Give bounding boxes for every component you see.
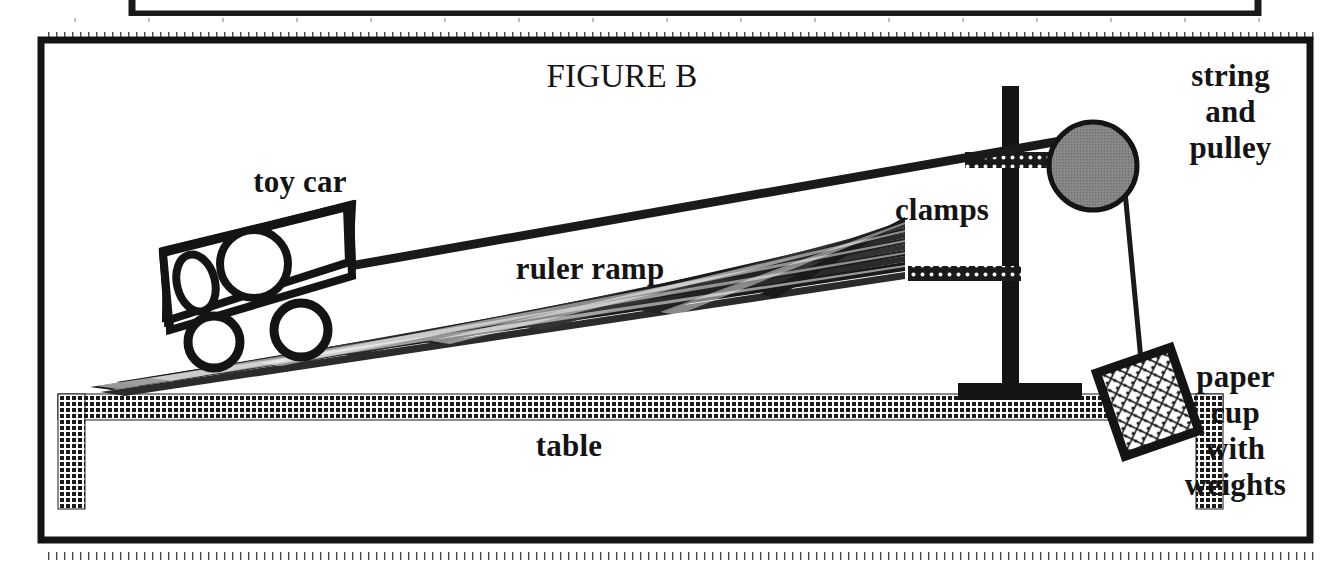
pulley-shape [1049,122,1137,210]
label-paper-cup-with-weights: paper cup with weights [1148,359,1323,503]
bottom-ruler-tick-strip [46,548,1318,564]
clamp-lower [908,266,1021,281]
label-toy-car: toy car [205,164,395,200]
toy-car-wheel-front [274,303,328,357]
figure-diagram: FIGURE B toy car ruler ramp clamps table… [0,0,1335,566]
bottom-page-marks [46,548,1318,564]
label-string-and-pulley: string and pulley [1148,58,1313,166]
toy-car-window-large [220,230,288,298]
label-table: table [474,428,664,464]
figure-title: FIGURE B [497,57,747,95]
top-partial-box [132,0,1258,14]
label-ruler-ramp: ruler ramp [480,251,700,287]
toy-car-wheel-rear [188,316,240,368]
label-clamps: clamps [852,192,1032,228]
